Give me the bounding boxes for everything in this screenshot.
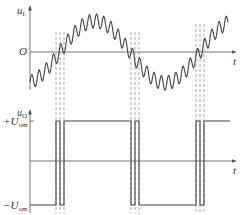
top-x-axis-label: t bbox=[233, 56, 236, 67]
bottom-x-axis-label: t bbox=[233, 165, 236, 176]
positive-level-label: +Uom bbox=[3, 116, 27, 129]
top-axes bbox=[30, 6, 236, 90]
waveform-diagram bbox=[0, 0, 246, 215]
top-y-axis-label: uI bbox=[17, 5, 25, 18]
bottom-axes bbox=[30, 110, 236, 213]
origin-label: O bbox=[19, 46, 27, 57]
output-square-wave bbox=[30, 121, 230, 205]
negative-level-label: −Uom bbox=[3, 200, 27, 213]
